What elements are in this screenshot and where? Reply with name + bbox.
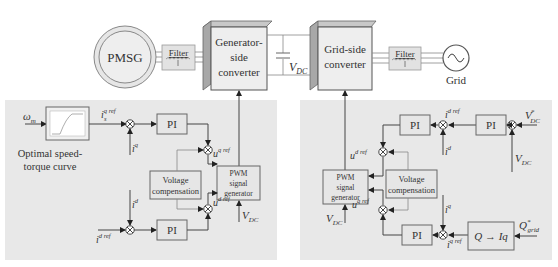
sum-junction-usq bbox=[204, 146, 212, 154]
gen-converter-label-1: Generator- bbox=[215, 36, 263, 48]
filter-right: Filter bbox=[389, 47, 421, 70]
vc-label-2: compensation bbox=[152, 186, 200, 196]
grid-label: Grid bbox=[446, 74, 467, 86]
gen-converter-label-2: side bbox=[230, 51, 248, 63]
q-to-iq-block: Q → Iq bbox=[468, 222, 514, 250]
pwm-label-1: PWM bbox=[230, 169, 248, 178]
pwm-label-1: PWM bbox=[337, 173, 355, 182]
grid-side-converter: Grid-side converter bbox=[310, 21, 376, 90]
gen-converter-label-3: converter bbox=[218, 66, 260, 78]
sum-junction-igq bbox=[439, 231, 447, 239]
three-phase-lines-3 bbox=[372, 53, 389, 63]
pi-label: PI bbox=[486, 119, 496, 131]
pwm-label-2: signal bbox=[230, 179, 248, 188]
sum-junction-igd bbox=[439, 121, 447, 129]
vc-label-1: Voltage bbox=[163, 175, 189, 185]
vc-label-1: Voltage bbox=[399, 174, 425, 184]
filter-left-label: Filter bbox=[169, 48, 189, 58]
curve-caption-1: Optimal speed- bbox=[18, 148, 83, 159]
pi-label: PI bbox=[167, 224, 177, 236]
vdc-label-top: VDC bbox=[289, 60, 308, 76]
grid-converter-label-2: converter bbox=[324, 58, 366, 70]
dc-link: VDC bbox=[267, 35, 313, 76]
pi-block-q-grid: PI bbox=[402, 225, 432, 245]
filter-left: Filter bbox=[162, 45, 195, 70]
sum-junction-q bbox=[126, 120, 134, 128]
sum-junction-ugd bbox=[379, 148, 387, 156]
sum-junction-ugq bbox=[379, 206, 387, 214]
pi-block-vdc: PI bbox=[476, 115, 506, 135]
vc-label-2: compensation bbox=[388, 185, 436, 195]
sum-junction-d bbox=[126, 226, 134, 234]
pmsg-generator: PMSG bbox=[94, 26, 156, 88]
voltage-compensation-generator: Voltage compensation bbox=[150, 171, 201, 199]
voltage-compensation-grid: Voltage compensation bbox=[386, 170, 437, 198]
grid-source: Grid bbox=[443, 45, 469, 86]
speed-torque-curve-block bbox=[46, 107, 89, 140]
pi-block-d-grid: PI bbox=[400, 115, 430, 135]
q-to-iq-label: Q → Iq bbox=[474, 230, 508, 242]
pmsg-label: PMSG bbox=[107, 50, 142, 65]
pwm-label-2: signal bbox=[337, 183, 355, 192]
sum-junction-vdc bbox=[508, 121, 516, 129]
filter-right-label: Filter bbox=[395, 49, 415, 59]
pi-label: PI bbox=[410, 119, 420, 131]
curve-caption-2: torque curve bbox=[24, 161, 77, 172]
sum-junction-usd bbox=[204, 205, 212, 213]
generator-side-converter: Generator- side converter bbox=[203, 21, 272, 90]
pi-block-q-generator: PI bbox=[157, 114, 187, 134]
pi-label: PI bbox=[412, 229, 422, 241]
three-phase-lines-4 bbox=[421, 53, 443, 63]
grid-converter-label-1: Grid-side bbox=[324, 43, 366, 55]
three-phase-lines-1 bbox=[156, 52, 162, 62]
pi-label: PI bbox=[167, 118, 177, 130]
pi-block-d-generator: PI bbox=[157, 220, 187, 240]
wind-converter-diagram: PMSG Filter Generator- side converter VD… bbox=[0, 0, 558, 267]
